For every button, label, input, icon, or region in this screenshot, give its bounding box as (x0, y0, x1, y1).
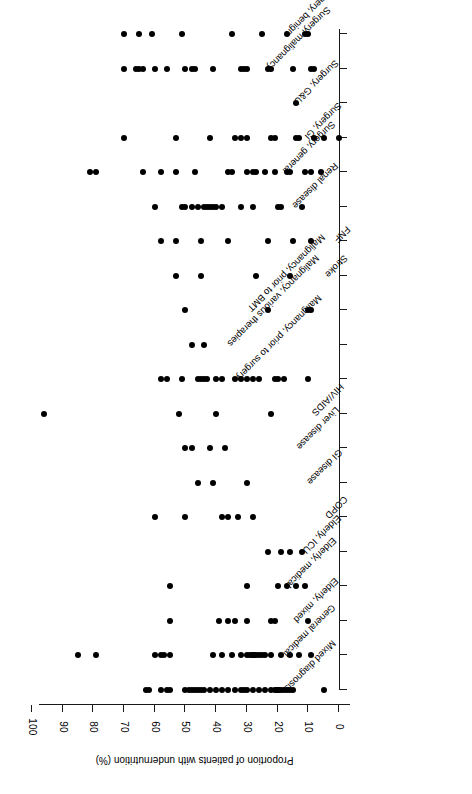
data-point (167, 653, 173, 659)
category-label: FNF (332, 225, 352, 245)
value-tick (215, 705, 216, 712)
data-point (299, 204, 305, 210)
category-tick (340, 310, 347, 311)
data-point (268, 411, 274, 417)
data-point (302, 170, 308, 176)
value-tick-label: 70 (119, 714, 129, 740)
data-point (262, 687, 268, 693)
data-point (213, 687, 219, 693)
data-point (179, 377, 185, 383)
data-point (265, 239, 271, 245)
data-point (195, 480, 201, 486)
data-point (167, 618, 173, 624)
data-point (232, 135, 238, 141)
data-point (238, 653, 244, 659)
data-point (287, 273, 293, 279)
value-tick (185, 705, 186, 712)
value-tick-label: 20 (273, 714, 283, 740)
data-point (198, 273, 204, 279)
category-tick (340, 482, 347, 483)
data-point (235, 515, 241, 521)
data-point (225, 239, 231, 245)
data-point (250, 687, 256, 693)
data-point (173, 239, 179, 245)
data-point (256, 377, 262, 383)
data-point (321, 687, 327, 693)
category-tick (340, 551, 347, 552)
category-label: Surgery, G&U (292, 59, 340, 107)
data-point (173, 273, 179, 279)
data-point (219, 653, 225, 659)
category-tick (340, 586, 347, 587)
data-point (253, 273, 259, 279)
data-point (167, 584, 173, 590)
value-axis-title-text: Proportion of patients with undernutriti… (39, 755, 350, 766)
data-point (232, 687, 238, 693)
data-point (173, 135, 179, 141)
data-point (225, 618, 231, 624)
data-point (250, 204, 256, 210)
data-point (210, 66, 216, 72)
data-point (189, 204, 195, 210)
data-point (219, 515, 225, 521)
data-point (207, 135, 213, 141)
data-point (121, 135, 127, 141)
data-point (136, 32, 142, 38)
data-point (121, 66, 127, 72)
data-point (210, 653, 216, 659)
value-axis-line (39, 704, 350, 705)
data-point (302, 584, 308, 590)
value-tick-label: 60 (150, 714, 160, 740)
value-tick (62, 705, 63, 712)
data-point (299, 549, 305, 555)
value-tick-label: 80 (88, 714, 98, 740)
value-tick (31, 705, 32, 712)
plot-area: Proportion of patients with undernutriti… (0, 0, 472, 794)
data-point (219, 204, 225, 210)
data-point (158, 239, 164, 245)
data-point (121, 32, 127, 38)
data-point (164, 377, 170, 383)
data-point (293, 135, 299, 141)
value-tick-label: 90 (58, 714, 68, 740)
value-tick (307, 705, 308, 712)
data-point (259, 32, 265, 38)
data-point (238, 66, 244, 72)
category-tick (340, 689, 347, 690)
data-point (265, 308, 271, 314)
data-point (189, 446, 195, 452)
data-point (238, 135, 244, 141)
figure-stage: Proportion of patients with undernutriti… (0, 0, 472, 794)
category-tick (340, 34, 347, 35)
data-point (284, 32, 290, 38)
category-tick (340, 655, 347, 656)
data-point (149, 32, 155, 38)
data-point (229, 653, 235, 659)
data-point (143, 687, 149, 693)
data-point (213, 411, 219, 417)
data-point (336, 135, 342, 141)
data-point (272, 170, 278, 176)
data-point (232, 618, 238, 624)
data-point (93, 170, 99, 176)
data-point (183, 446, 189, 452)
category-tick (340, 172, 347, 173)
data-point (152, 66, 158, 72)
data-point (308, 170, 314, 176)
category-tick (340, 103, 347, 104)
data-point (293, 584, 299, 590)
data-point (164, 66, 170, 72)
value-tick-label: 0 (334, 714, 344, 740)
data-point (244, 170, 250, 176)
data-point (189, 66, 195, 72)
data-point (93, 653, 99, 659)
data-point (192, 170, 198, 176)
data-point (275, 584, 281, 590)
data-point (158, 687, 164, 693)
data-point (140, 170, 146, 176)
data-point (225, 515, 231, 521)
data-point (232, 377, 238, 383)
data-point (244, 584, 250, 590)
value-tick (277, 705, 278, 712)
data-point (210, 480, 216, 486)
